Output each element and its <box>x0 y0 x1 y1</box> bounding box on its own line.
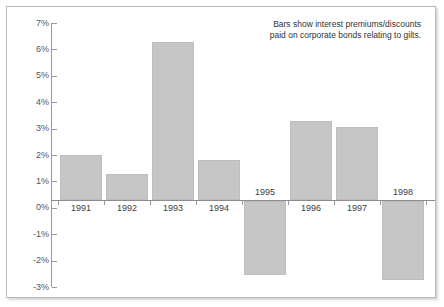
y-tick-minus-2 <box>52 261 57 262</box>
bar-1991 <box>60 155 102 200</box>
x-tick-3 <box>196 201 197 205</box>
plot-area: 7% 6% 5% 4% 3% 2% 1% 0% -1% -2% -3% <box>7 7 437 299</box>
x-tick-6 <box>334 201 335 205</box>
chart-frame: 7% 6% 5% 4% 3% 2% 1% 0% -1% -2% -3% <box>6 6 436 298</box>
y-tick-minus-3 <box>52 287 57 288</box>
x-axis-zero-line <box>51 200 435 201</box>
x-tick-1 <box>104 201 105 205</box>
bar-1994 <box>198 160 240 200</box>
bar-1997 <box>336 127 378 200</box>
chart-figure: 7% 6% 5% 4% 3% 2% 1% 0% -1% -2% -3% <box>0 0 444 307</box>
y-tick-label-7: 7% <box>9 19 49 28</box>
bar-1992 <box>106 174 148 200</box>
y-tick-label-2: 2% <box>9 151 49 160</box>
x-label-1994: 1994 <box>198 203 240 213</box>
annotation-line-2: paid on corporate bonds relating to gilt… <box>270 30 421 41</box>
x-tick-4 <box>242 201 243 205</box>
y-tick-label-0: 0% <box>9 203 49 212</box>
annotation-line-1: Bars show interest premiums/discounts <box>270 19 421 30</box>
bar-1998 <box>382 201 424 280</box>
x-label-1997: 1997 <box>336 203 378 213</box>
y-tick-label-4: 4% <box>9 98 49 107</box>
y-tick-2 <box>52 155 57 156</box>
y-tick-3 <box>52 129 57 130</box>
y-tick-label-1: 1% <box>9 177 49 186</box>
y-tick-label-5: 5% <box>9 71 49 80</box>
y-tick-6 <box>52 49 57 50</box>
x-tick-5 <box>288 201 289 205</box>
y-tick-label-3: 3% <box>9 124 49 133</box>
x-tick-0 <box>58 201 59 205</box>
x-label-1995: 1995 <box>244 187 286 197</box>
y-tick-5 <box>52 76 57 77</box>
y-tick-minus-1 <box>52 234 57 235</box>
y-tick-7 <box>52 23 57 24</box>
y-tick-0 <box>52 208 57 209</box>
bar-1993 <box>152 42 194 200</box>
y-tick-label-minus-2: -2% <box>9 256 49 265</box>
x-tick-8 <box>426 201 427 205</box>
y-tick-1 <box>52 181 57 182</box>
bar-1996 <box>290 121 332 200</box>
y-tick-4 <box>52 102 57 103</box>
x-label-1996: 1996 <box>290 203 332 213</box>
x-tick-7 <box>380 201 381 205</box>
x-label-1992: 1992 <box>106 203 148 213</box>
y-tick-label-minus-3: -3% <box>9 283 49 292</box>
bar-1995 <box>244 201 286 275</box>
y-tick-label-minus-1: -1% <box>9 230 49 239</box>
x-label-1993: 1993 <box>152 203 194 213</box>
chart-annotation: Bars show interest premiums/discounts pa… <box>270 19 421 41</box>
x-tick-2 <box>150 201 151 205</box>
x-label-1998: 1998 <box>382 187 424 197</box>
y-tick-label-6: 6% <box>9 45 49 54</box>
x-label-1991: 1991 <box>60 203 102 213</box>
